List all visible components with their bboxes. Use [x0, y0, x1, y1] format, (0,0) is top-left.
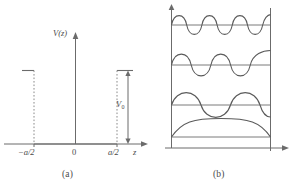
state-baselines [172, 25, 271, 137]
tick-label-a-over-2: a/2 [108, 148, 119, 157]
v0-label: V0 [116, 100, 124, 109]
tick-label-minus-a-over-2: −a/2 [18, 148, 35, 157]
tick-label-zero: 0 [72, 148, 76, 157]
v-axis-label: V(z) [53, 29, 67, 38]
panel-b-infinite-well: 0 0 0 0 0 ϕ4 ϕ3 ϕ2 ϕ1 E4 E3 E2 E1 a x [151, 0, 302, 191]
caption-panel-a: (a) [62, 169, 73, 179]
well-walls [169, 4, 271, 148]
caption-panel-b: (b) [213, 169, 225, 179]
wavefunction-phi3-curve [172, 51, 271, 76]
v-axis [73, 32, 79, 144]
panel-b-plot [151, 0, 302, 191]
v0-measure-arrow [125, 71, 130, 145]
figure-root: V(z) −a/2 0 a/2 z V0 [0, 0, 302, 191]
panel-a-finite-well: V(z) −a/2 0 a/2 z V0 [0, 0, 151, 191]
panel-a-plot [0, 0, 151, 191]
wavefunction-phi4-curve [172, 15, 271, 35]
z-axis-label: z [133, 148, 136, 157]
wavefunction-phi1-curve [172, 119, 271, 138]
